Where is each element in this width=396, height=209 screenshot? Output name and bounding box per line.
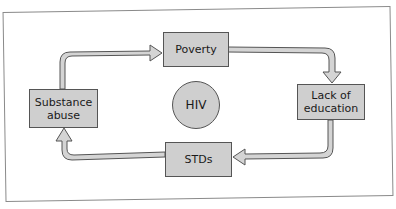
center-hiv-label: HIV — [186, 98, 207, 112]
arrow-stds-to-substance — [56, 128, 165, 160]
node-lack-of-education: Lack of education — [297, 84, 365, 120]
node-lack-of-education-label: Lack of education — [304, 89, 359, 115]
arrow-substance-to-poverty — [60, 45, 162, 89]
node-poverty: Poverty — [163, 32, 229, 67]
node-stds: STDs — [165, 142, 232, 177]
node-substance-abuse-label: Substance abuse — [35, 96, 93, 122]
arrow-poverty-to-education — [228, 47, 341, 83]
center-hiv: HIV — [172, 81, 220, 129]
node-substance-abuse: Substance abuse — [29, 89, 98, 128]
node-stds-label: STDs — [185, 153, 213, 166]
arrow-education-to-stds — [233, 120, 333, 165]
node-poverty-label: Poverty — [175, 43, 217, 56]
